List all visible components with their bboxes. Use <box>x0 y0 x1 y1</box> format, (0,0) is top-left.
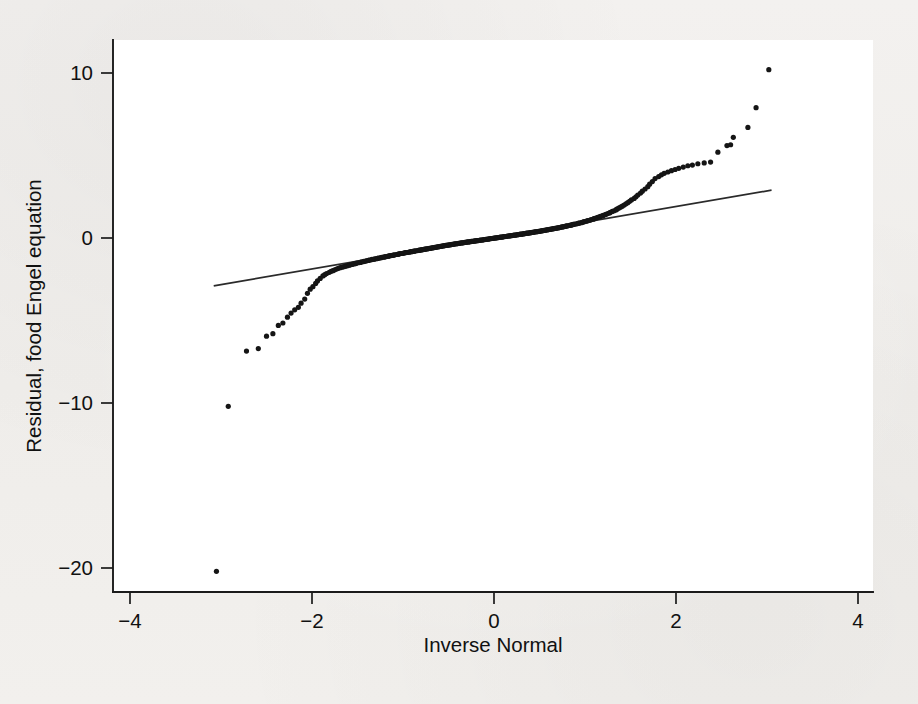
scatter-point <box>298 301 303 306</box>
scatter-point <box>766 67 771 72</box>
y-axis-ticks: 100−10−20 <box>58 61 113 579</box>
scatter-point <box>731 135 736 140</box>
x-tick-label: 2 <box>670 609 681 632</box>
scatter-point <box>244 348 249 353</box>
scatter-point <box>728 142 733 147</box>
scatter-point <box>285 315 290 320</box>
scatter-point <box>276 323 281 328</box>
scatter-point <box>214 569 219 574</box>
scatter-point <box>690 162 695 167</box>
scatter-point <box>708 160 713 165</box>
scatter-point <box>302 296 307 301</box>
y-tick-label: 0 <box>82 226 93 249</box>
scatter-point <box>676 166 681 171</box>
scatter-point <box>745 125 750 130</box>
qq-plot-figure: 100−10−20 −4−2024 Inverse Normal Residua… <box>0 0 918 704</box>
scatter-point <box>270 331 275 336</box>
x-axis-ticks: −4−2024 <box>118 592 863 632</box>
scatter-point <box>264 334 269 339</box>
y-tick-label: −10 <box>58 391 93 414</box>
scatter-point <box>681 164 686 169</box>
x-tick-label: −4 <box>118 609 141 632</box>
scatter-point <box>685 163 690 168</box>
scatter-point <box>256 346 261 351</box>
scatter-point <box>226 404 231 409</box>
plot-area-background <box>113 40 873 592</box>
scatter-point <box>280 320 285 325</box>
y-tick-label: 10 <box>70 61 93 84</box>
x-tick-label: −2 <box>300 609 323 632</box>
scatter-point <box>702 160 707 165</box>
scatter-point <box>695 161 700 166</box>
x-tick-label: 0 <box>488 609 499 632</box>
scatter-point <box>715 150 720 155</box>
scatter-point <box>753 105 758 110</box>
y-axis-title: Residual, food Engel equation <box>22 179 45 453</box>
qq-plot-svg: 100−10−20 −4−2024 Inverse Normal Residua… <box>0 0 918 704</box>
x-axis-title: Inverse Normal <box>424 633 563 656</box>
x-tick-label: 4 <box>852 609 863 632</box>
y-tick-label: −20 <box>58 556 93 579</box>
